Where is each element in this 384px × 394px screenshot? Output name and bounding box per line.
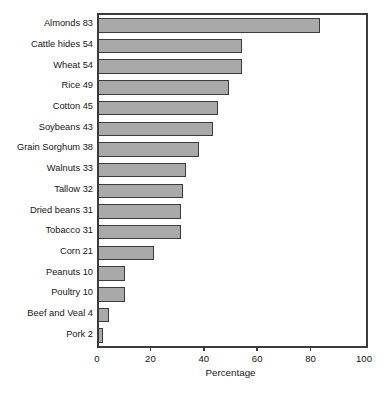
bar[interactable] <box>98 225 181 239</box>
category-label: Pork 2 <box>0 329 93 339</box>
bar[interactable] <box>98 184 183 198</box>
category-axis-labels: Almonds 83Cattle hides 54Wheat 54Rice 49… <box>0 13 93 344</box>
bar-row <box>99 184 366 198</box>
bar-row <box>99 204 366 218</box>
bars-layer <box>99 15 366 346</box>
bar-row <box>99 80 366 94</box>
bar-row <box>99 308 366 322</box>
category-label: Grain Sorghum 38 <box>0 142 93 152</box>
category-label: Cattle hides 54 <box>0 39 93 49</box>
bar[interactable] <box>98 59 242 73</box>
category-label: Walnuts 33 <box>0 163 93 173</box>
category-label: Soybeans 43 <box>0 122 93 132</box>
x-axis: 020406080100 <box>97 346 364 366</box>
x-axis-tick-label: 20 <box>145 353 156 364</box>
category-label: Almonds 83 <box>0 18 93 28</box>
bar-row <box>99 39 366 53</box>
bar-row <box>99 142 366 156</box>
footer-caption-sliver <box>8 390 368 394</box>
bar[interactable] <box>98 328 103 342</box>
bar-row <box>99 328 366 342</box>
x-axis-tick-label: 100 <box>356 353 372 364</box>
bar-row <box>99 59 366 73</box>
bar-row <box>99 266 366 280</box>
plot-area <box>97 13 368 348</box>
bar[interactable] <box>98 163 186 177</box>
bar[interactable] <box>98 39 242 53</box>
x-axis-tick <box>203 346 205 351</box>
category-label: Tallow 32 <box>0 184 93 194</box>
x-axis-tick-label: 60 <box>252 353 263 364</box>
bar[interactable] <box>98 204 181 218</box>
x-axis-tick-label: 0 <box>94 353 99 364</box>
bar[interactable] <box>98 287 125 301</box>
bar[interactable] <box>98 122 213 136</box>
category-label: Cotton 45 <box>0 101 93 111</box>
bar-row <box>99 163 366 177</box>
x-axis-title: Percentage <box>97 367 364 379</box>
bar[interactable] <box>98 18 320 32</box>
bar[interactable] <box>98 142 199 156</box>
category-label: Poultry 10 <box>0 287 93 297</box>
category-label: Peanuts 10 <box>0 267 93 277</box>
category-label: Dried beans 31 <box>0 205 93 215</box>
category-label: Tobacco 31 <box>0 225 93 235</box>
bar[interactable] <box>98 101 218 115</box>
bar-row <box>99 18 366 32</box>
bar-row <box>99 246 366 260</box>
category-label: Rice 49 <box>0 80 93 90</box>
category-label: Beef and Veal 4 <box>0 308 93 318</box>
category-label: Wheat 54 <box>0 60 93 70</box>
bar-chart-figure: Almonds 83Cattle hides 54Wheat 54Rice 49… <box>0 0 384 394</box>
bar-row <box>99 287 366 301</box>
x-axis-tick-label: 80 <box>305 353 316 364</box>
bar[interactable] <box>98 308 109 322</box>
category-label: Corn 21 <box>0 246 93 256</box>
x-axis-tick <box>310 346 312 351</box>
bar-row <box>99 122 366 136</box>
bar[interactable] <box>98 246 154 260</box>
x-axis-tick <box>256 346 258 351</box>
bar-row <box>99 225 366 239</box>
x-axis-tick <box>150 346 152 351</box>
bar[interactable] <box>98 266 125 280</box>
bar[interactable] <box>98 80 229 94</box>
x-axis-tick-label: 40 <box>198 353 209 364</box>
bar-row <box>99 101 366 115</box>
